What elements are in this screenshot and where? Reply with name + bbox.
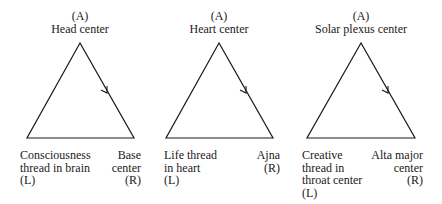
triangle-1-left-label: Consciousness thread in brain (L) <box>20 149 91 187</box>
left-line: (L) <box>20 174 91 187</box>
triangle-3-apex-label: (A) Solar plexus center <box>315 10 407 35</box>
triangle-3-left-label: Creative thread in throat center (L) <box>302 149 362 199</box>
triangle-2-outline <box>166 43 273 138</box>
apex-tag: (A) <box>190 10 249 23</box>
triangle-1-right-label: Base center (R) <box>112 149 141 187</box>
triangle-3-right-label: Alta major center (R) <box>371 149 423 187</box>
triangle-1-outline <box>27 43 134 138</box>
right-line: (R) <box>257 162 280 175</box>
apex-name: Heart center <box>190 23 249 36</box>
triangle-1-apex-label: (A) Head center <box>51 10 109 35</box>
triangles-diagram: (A) Head center Consciousness thread in … <box>0 0 442 204</box>
triangle-2-apex-label: (A) Heart center <box>190 10 249 35</box>
triangle-2-right-label: Ajna (R) <box>257 149 280 174</box>
left-line: Life thread <box>164 149 217 162</box>
triangle-2-left-label: Life thread in heart (L) <box>164 149 217 187</box>
right-line: (R) <box>371 174 423 187</box>
left-line: (L) <box>164 174 217 187</box>
left-line: Creative <box>302 149 362 162</box>
apex-name: Solar plexus center <box>315 23 407 36</box>
right-line: (R) <box>112 174 141 187</box>
left-line: Consciousness <box>20 149 91 162</box>
left-line: (L) <box>302 187 362 200</box>
apex-name: Head center <box>51 23 109 36</box>
left-line: throat center <box>302 174 362 187</box>
right-line: Ajna <box>257 149 280 162</box>
apex-tag: (A) <box>315 10 407 23</box>
right-line: Base <box>112 149 141 162</box>
right-line: Alta major <box>371 149 423 162</box>
apex-tag: (A) <box>51 10 109 23</box>
triangle-3-outline <box>307 43 415 138</box>
